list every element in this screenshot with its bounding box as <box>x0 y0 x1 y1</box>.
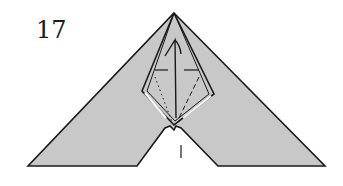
fold-diagram <box>0 0 343 186</box>
outer-triangle-shape <box>28 13 325 166</box>
